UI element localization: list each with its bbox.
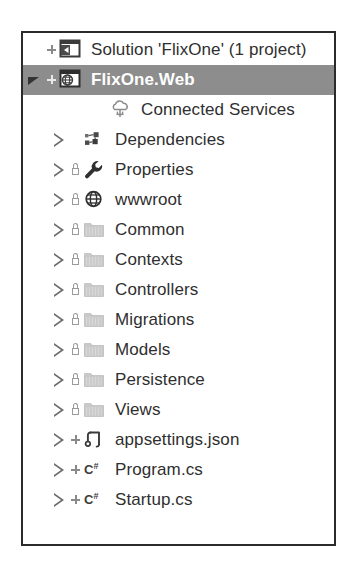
tree-item-label: Program.cs	[115, 460, 203, 480]
folder-icon	[82, 368, 108, 392]
tree-row[interactable]: Properties	[23, 155, 334, 185]
tree-item-label: Connected Services	[141, 100, 295, 120]
dependencies-icon	[82, 128, 108, 152]
chevron-right-icon[interactable]	[49, 159, 69, 181]
solution-tree[interactable]: Solution 'FlixOne' (1 project)FlixOne.We…	[23, 33, 334, 515]
chevron-down-icon[interactable]	[25, 69, 45, 91]
expander-placeholder	[25, 39, 45, 61]
lock-icon	[69, 369, 82, 391]
tree-item-label: Models	[115, 340, 170, 360]
svg-text:#: #	[93, 461, 98, 471]
lock-icon	[69, 279, 82, 301]
chevron-right-icon[interactable]	[49, 279, 69, 301]
tree-row[interactable]: C#Program.cs	[23, 455, 334, 485]
tree-item-label: Persistence	[115, 370, 205, 390]
tree-row[interactable]: Models	[23, 335, 334, 365]
tree-item-label: Views	[115, 400, 161, 420]
tree-row[interactable]: Common	[23, 215, 334, 245]
folder-icon	[82, 338, 108, 362]
tree-row[interactable]: wwwroot	[23, 185, 334, 215]
lock-icon	[69, 309, 82, 331]
lock-icon	[69, 399, 82, 421]
tree-item-label: Contexts	[115, 250, 183, 270]
source-control-add-icon	[45, 69, 58, 91]
tree-item-label: Controllers	[115, 280, 198, 300]
tree-row[interactable]: Solution 'FlixOne' (1 project)	[23, 35, 334, 65]
tree-row[interactable]: Controllers	[23, 275, 334, 305]
tree-item-label: appsettings.json	[115, 430, 239, 450]
chevron-right-icon[interactable]	[49, 399, 69, 421]
tree-row[interactable]: Connected Services	[23, 95, 334, 125]
chevron-right-icon[interactable]	[49, 309, 69, 331]
screenshot-root: Solution 'FlixOne' (1 project)FlixOne.We…	[0, 0, 359, 576]
tree-item-label: FlixOne.Web	[91, 70, 195, 90]
wrench-icon	[82, 158, 108, 182]
tree-item-label: Startup.cs	[115, 490, 193, 510]
chevron-right-icon[interactable]	[49, 219, 69, 241]
lock-icon	[69, 249, 82, 271]
tree-item-label: Migrations	[115, 310, 194, 330]
tree-item-label: Dependencies	[115, 130, 225, 150]
tree-item-label: Solution 'FlixOne' (1 project)	[91, 40, 306, 60]
tree-row[interactable]: C#Startup.cs	[23, 485, 334, 515]
lock-icon	[69, 219, 82, 241]
solution-explorer-panel: Solution 'FlixOne' (1 project)FlixOne.We…	[21, 31, 336, 546]
csharp-file-icon: C#	[82, 488, 108, 512]
folder-icon	[82, 398, 108, 422]
tree-row[interactable]: Views	[23, 395, 334, 425]
chevron-right-icon[interactable]	[49, 489, 69, 511]
tree-item-label: Common	[115, 220, 185, 240]
tree-item-label: Properties	[115, 160, 193, 180]
svg-text:#: #	[93, 491, 98, 501]
source-control-add-icon	[45, 39, 58, 61]
chevron-right-icon[interactable]	[49, 249, 69, 271]
tree-row[interactable]: appsettings.json	[23, 425, 334, 455]
folder-icon	[82, 278, 108, 302]
tree-row[interactable]: Persistence	[23, 365, 334, 395]
web-project-icon	[58, 68, 84, 92]
tree-item-label: wwwroot	[115, 190, 182, 210]
chevron-right-icon[interactable]	[49, 339, 69, 361]
json-file-icon	[82, 428, 108, 452]
folder-icon	[82, 248, 108, 272]
chevron-right-icon[interactable]	[49, 369, 69, 391]
globe-icon	[82, 188, 108, 212]
tree-row[interactable]: Dependencies	[23, 125, 334, 155]
tree-row[interactable]: FlixOne.Web	[23, 65, 334, 95]
tree-row[interactable]: Migrations	[23, 305, 334, 335]
source-control-add-icon	[69, 489, 82, 511]
solution-icon	[58, 38, 84, 62]
chevron-right-icon[interactable]	[49, 129, 69, 151]
chevron-right-icon[interactable]	[49, 459, 69, 481]
chevron-right-icon[interactable]	[49, 189, 69, 211]
csharp-file-icon: C#	[82, 458, 108, 482]
tree-row[interactable]: Contexts	[23, 245, 334, 275]
lock-icon	[69, 339, 82, 361]
folder-icon	[82, 218, 108, 242]
source-control-add-icon	[69, 459, 82, 481]
expander-placeholder	[75, 99, 95, 121]
chevron-right-icon[interactable]	[49, 429, 69, 451]
folder-icon	[82, 308, 108, 332]
connected-services-icon	[108, 98, 134, 122]
lock-icon	[69, 189, 82, 211]
lock-icon	[69, 159, 82, 181]
source-control-add-icon	[69, 429, 82, 451]
